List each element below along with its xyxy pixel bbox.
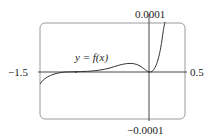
curve-point-marker — [75, 71, 77, 73]
y-max-label: 0.0001 — [135, 9, 165, 20]
plot-frame — [40, 23, 185, 119]
curve-annotation: y = f(x) — [75, 52, 108, 63]
chart-plot — [0, 0, 213, 140]
x-max-label: 0.5 — [190, 67, 204, 78]
x-min-label: −1.5 — [8, 67, 28, 78]
y-min-label: −0.0001 — [127, 125, 163, 136]
